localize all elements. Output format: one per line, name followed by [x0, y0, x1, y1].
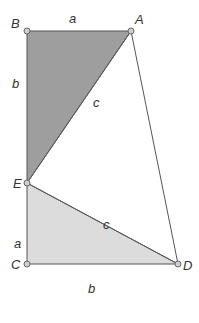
- point-e: [24, 180, 30, 186]
- trapezoid-diagram: B A E C D a b c a c b: [0, 0, 199, 323]
- point-c: [24, 261, 30, 267]
- edge-ad: [131, 31, 178, 264]
- label-e: E: [13, 176, 22, 191]
- label-b: B: [11, 16, 20, 31]
- edge-label-ed: c: [103, 217, 110, 232]
- edge-label-cd: b: [88, 281, 95, 296]
- edge-label-ec: a: [14, 236, 21, 251]
- edge-label-ea: c: [93, 95, 100, 110]
- point-a: [128, 28, 134, 34]
- point-d: [175, 261, 181, 267]
- edge-label-be: b: [12, 76, 19, 91]
- edge-label-ba: a: [69, 11, 76, 26]
- point-b: [24, 28, 30, 34]
- label-c: C: [11, 257, 21, 272]
- label-a: A: [134, 12, 144, 27]
- label-d: D: [183, 258, 192, 273]
